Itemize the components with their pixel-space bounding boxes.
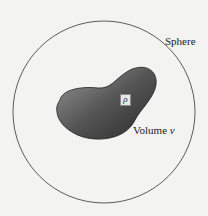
diagram-canvas bbox=[0, 0, 208, 216]
volume-label-text: Volume bbox=[133, 124, 170, 136]
sphere-label: Sphere bbox=[165, 35, 196, 47]
volume-variable: v bbox=[170, 124, 175, 136]
volume-label: Volume v bbox=[133, 124, 175, 136]
density-label: ρ bbox=[120, 94, 131, 106]
